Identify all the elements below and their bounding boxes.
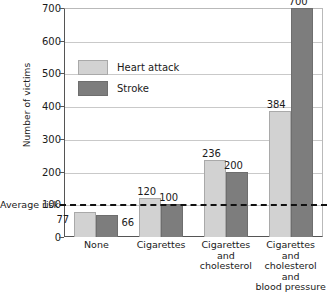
x-category-label-line: blood pressure — [250, 282, 331, 293]
bar-value-label: 100 — [159, 192, 178, 203]
legend-swatch-stroke — [78, 81, 108, 96]
bar-stroke — [291, 8, 313, 237]
bar-stroke — [96, 215, 118, 237]
bar-group: 384700 — [258, 8, 323, 237]
bar-value-label: 120 — [137, 186, 156, 197]
bar-heart-attack — [269, 111, 291, 237]
legend-item-stroke: Stroke — [78, 81, 179, 96]
bar-group: 236200 — [194, 8, 259, 237]
y-tick-label: 200 — [21, 166, 61, 177]
y-tick-label: 300 — [21, 133, 61, 144]
legend-item-heart-attack: Heart attack — [78, 60, 179, 75]
legend-swatch-heart-attack — [78, 60, 108, 75]
bar-value-label: 384 — [267, 99, 286, 110]
chart-legend: Heart attack Stroke — [78, 60, 179, 102]
x-category-label-line: cholesterol — [250, 261, 331, 272]
legend-label-heart-attack: Heart attack — [117, 62, 179, 73]
bar-heart-attack — [74, 212, 96, 237]
y-tick-mark — [59, 237, 64, 238]
bar-group: 120100 — [129, 8, 194, 237]
y-tick-label: 600 — [21, 35, 61, 46]
bar-value-label: 77 — [56, 214, 69, 225]
y-tick-label: 400 — [21, 101, 61, 112]
x-axis-category-labels: NoneCigarettesCigarettesandcholesterolCi… — [64, 240, 323, 300]
y-tick-label: 500 — [21, 68, 61, 79]
bar-stroke — [161, 204, 183, 237]
bar-value-label: 236 — [202, 148, 221, 159]
average-risk-line — [60, 204, 327, 206]
bars-layer: 7766120100236200384700 — [64, 8, 323, 237]
bar-chart: Number of victims 0100200300400500600700… — [0, 0, 333, 301]
y-tick-label: 700 — [21, 3, 61, 14]
bar-heart-attack — [204, 160, 226, 237]
x-category-label-line: Cigarettes — [250, 240, 331, 251]
bar-value-label: 200 — [224, 160, 243, 171]
y-tick-label: 0 — [21, 232, 61, 243]
average-risk-label: Average risk — [0, 199, 58, 210]
legend-label-stroke: Stroke — [117, 83, 149, 94]
bar-group: 7766 — [64, 8, 129, 237]
bar-value-label: 700 — [289, 0, 308, 7]
x-category-label: Cigarettesandcholesterolandblood pressur… — [250, 240, 331, 293]
